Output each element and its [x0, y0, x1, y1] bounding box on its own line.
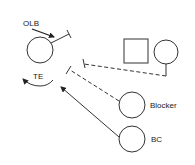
play-diagram: OLB TE Blocker BC: [0, 0, 195, 165]
olb-block-line: [51, 34, 69, 43]
square-player: [124, 39, 148, 63]
dashed-block-line-upper: [84, 64, 166, 76]
dashed-block-tee-upper: [83, 59, 85, 68]
dashed-block-line-lower: [70, 70, 119, 101]
olb-pointer-arrow: [32, 29, 54, 37]
blocker-label: Blocker: [150, 101, 177, 110]
blocker-circle: [119, 92, 145, 118]
bc-circle: [119, 126, 145, 152]
bc-label: BC: [151, 135, 162, 144]
te-label: TE: [33, 72, 43, 81]
bc-run-arrow: [61, 87, 119, 137]
dashed-block-tee-lower: [66, 66, 71, 74]
right-player-circle: [154, 40, 178, 64]
olb-block-tee: [67, 30, 71, 38]
olb-circle: [27, 37, 53, 63]
olb-label: OLB: [23, 19, 39, 28]
